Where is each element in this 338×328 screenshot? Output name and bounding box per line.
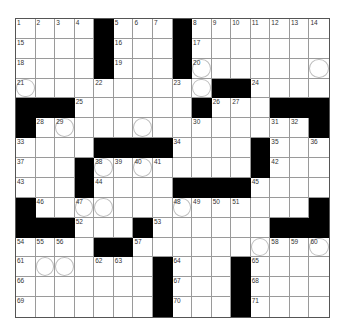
- grid-cell[interactable]: [94, 98, 114, 118]
- grid-cell[interactable]: [270, 178, 290, 198]
- grid-cell[interactable]: 49: [192, 198, 212, 218]
- grid-cell[interactable]: [75, 138, 95, 158]
- grid-cell[interactable]: [192, 277, 212, 297]
- grid-cell[interactable]: [114, 277, 134, 297]
- grid-cell[interactable]: 43: [16, 178, 36, 198]
- grid-cell[interactable]: [55, 277, 75, 297]
- grid-cell[interactable]: 35: [270, 138, 290, 158]
- grid-cell[interactable]: [153, 59, 173, 79]
- grid-cell[interactable]: 69: [16, 297, 36, 317]
- grid-cell[interactable]: [192, 158, 212, 178]
- grid-cell[interactable]: 65: [251, 257, 271, 277]
- grid-cell[interactable]: 12: [270, 19, 290, 39]
- grid-cell[interactable]: [173, 98, 193, 118]
- grid-cell[interactable]: [173, 158, 193, 178]
- grid-cell[interactable]: [290, 277, 310, 297]
- grid-cell[interactable]: [251, 218, 271, 238]
- grid-cell[interactable]: [36, 297, 56, 317]
- grid-cell[interactable]: [192, 297, 212, 317]
- grid-cell[interactable]: 6: [133, 19, 153, 39]
- grid-cell[interactable]: 24: [251, 79, 271, 99]
- grid-cell[interactable]: [212, 118, 232, 138]
- grid-cell[interactable]: 41: [153, 158, 173, 178]
- grid-cell[interactable]: [231, 118, 251, 138]
- grid-cell[interactable]: 45: [251, 178, 271, 198]
- grid-cell[interactable]: [75, 79, 95, 99]
- grid-cell[interactable]: [36, 158, 56, 178]
- grid-cell[interactable]: [133, 297, 153, 317]
- grid-cell[interactable]: [153, 98, 173, 118]
- grid-cell[interactable]: [133, 277, 153, 297]
- grid-cell[interactable]: [212, 218, 232, 238]
- grid-cell[interactable]: 37: [16, 158, 36, 178]
- grid-cell[interactable]: [55, 297, 75, 317]
- grid-cell[interactable]: [290, 59, 310, 79]
- grid-cell[interactable]: [309, 178, 329, 198]
- grid-cell[interactable]: [133, 59, 153, 79]
- grid-cell[interactable]: [55, 39, 75, 59]
- grid-cell[interactable]: [114, 198, 134, 218]
- grid-cell[interactable]: [75, 277, 95, 297]
- grid-cell[interactable]: [114, 297, 134, 317]
- grid-cell[interactable]: [212, 158, 232, 178]
- grid-cell[interactable]: [114, 79, 134, 99]
- grid-cell[interactable]: 9: [212, 19, 232, 39]
- grid-cell[interactable]: 52: [75, 218, 95, 238]
- grid-cell[interactable]: 42: [270, 158, 290, 178]
- grid-cell[interactable]: 26: [212, 98, 232, 118]
- grid-cell[interactable]: [231, 218, 251, 238]
- grid-cell[interactable]: 15: [16, 39, 36, 59]
- grid-cell[interactable]: [309, 158, 329, 178]
- grid-cell[interactable]: 29: [55, 118, 75, 138]
- grid-cell[interactable]: 19: [114, 59, 134, 79]
- grid-cell[interactable]: [75, 118, 95, 138]
- grid-cell[interactable]: [36, 277, 56, 297]
- grid-cell[interactable]: 53: [153, 218, 173, 238]
- grid-cell[interactable]: [75, 39, 95, 59]
- grid-cell[interactable]: 61: [16, 257, 36, 277]
- grid-cell[interactable]: [94, 277, 114, 297]
- grid-cell[interactable]: [309, 79, 329, 99]
- grid-cell[interactable]: [133, 98, 153, 118]
- grid-cell[interactable]: 4: [75, 19, 95, 39]
- grid-cell[interactable]: 57: [133, 238, 153, 258]
- grid-cell[interactable]: 20: [192, 59, 212, 79]
- grid-cell[interactable]: [55, 158, 75, 178]
- grid-cell[interactable]: [153, 238, 173, 258]
- grid-cell[interactable]: [153, 39, 173, 59]
- grid-cell[interactable]: 38: [94, 158, 114, 178]
- grid-cell[interactable]: [251, 39, 271, 59]
- grid-cell[interactable]: 5: [114, 19, 134, 39]
- grid-cell[interactable]: [212, 297, 232, 317]
- grid-cell[interactable]: 66: [16, 277, 36, 297]
- grid-cell[interactable]: [270, 198, 290, 218]
- grid-cell[interactable]: 71: [251, 297, 271, 317]
- grid-cell[interactable]: [290, 138, 310, 158]
- grid-cell[interactable]: [270, 257, 290, 277]
- grid-cell[interactable]: [251, 118, 271, 138]
- grid-cell[interactable]: 2: [36, 19, 56, 39]
- grid-cell[interactable]: [192, 218, 212, 238]
- grid-cell[interactable]: [94, 218, 114, 238]
- grid-cell[interactable]: 51: [231, 198, 251, 218]
- grid-cell[interactable]: 50: [212, 198, 232, 218]
- grid-cell[interactable]: [36, 39, 56, 59]
- grid-cell[interactable]: [114, 98, 134, 118]
- grid-cell[interactable]: 3: [55, 19, 75, 39]
- grid-cell[interactable]: [133, 178, 153, 198]
- grid-cell[interactable]: 67: [173, 277, 193, 297]
- grid-cell[interactable]: [270, 39, 290, 59]
- grid-cell[interactable]: [55, 138, 75, 158]
- grid-cell[interactable]: [251, 59, 271, 79]
- grid-cell[interactable]: [173, 218, 193, 238]
- grid-cell[interactable]: 56: [55, 238, 75, 258]
- grid-cell[interactable]: [192, 257, 212, 277]
- grid-cell[interactable]: 21: [16, 79, 36, 99]
- grid-cell[interactable]: 8: [192, 19, 212, 39]
- grid-cell[interactable]: 7: [153, 19, 173, 39]
- grid-cell[interactable]: 25: [75, 98, 95, 118]
- grid-cell[interactable]: [290, 178, 310, 198]
- grid-cell[interactable]: 68: [251, 277, 271, 297]
- grid-cell[interactable]: [231, 39, 251, 59]
- grid-cell[interactable]: 14: [309, 19, 329, 39]
